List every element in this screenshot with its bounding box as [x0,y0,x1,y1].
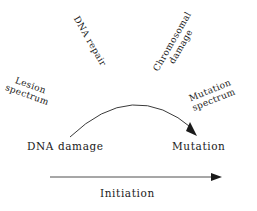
initiation-axis-group [50,173,222,181]
diagram-canvas: Lesion spectrum DNA repair Chromosomal d… [0,0,257,211]
node-label-dna-damage: DNA damage [27,141,104,153]
diagram-vector-layer [0,0,257,211]
node-label-mutation: Mutation [172,141,225,153]
initiation-arrowhead-icon [211,173,222,181]
axis-label-initiation: Initiation [100,188,155,200]
damage-to-mutation-arc [70,105,193,137]
damage-to-mutation-arc-group [70,105,197,137]
